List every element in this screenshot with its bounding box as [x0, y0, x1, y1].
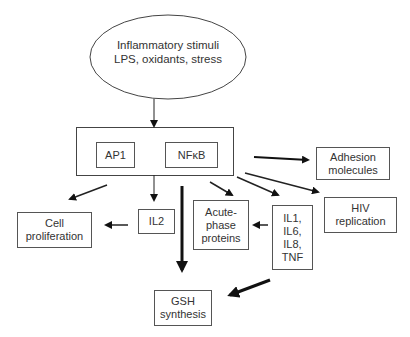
cell-proliferation-label: Cell proliferation [26, 217, 83, 243]
acute-phase-proteins-label: Acute- phase proteins [201, 206, 240, 245]
il2-node: IL2 [138, 209, 175, 234]
arrow-cytokines-to-gsh [230, 280, 270, 295]
cytokines-label: IL1, IL6, IL8, TNF [282, 212, 303, 264]
nfkb-node: NFκB [165, 142, 218, 168]
ap1-node: AP1 [96, 142, 135, 168]
adhesion-molecules-node: Adhesion molecules [316, 147, 390, 180]
cytokines-node: IL1, IL6, IL8, TNF [272, 205, 313, 270]
ap1-label: AP1 [105, 149, 126, 162]
stimuli-label: Inflammatory stimuli LPS, oxidants, stre… [100, 38, 236, 66]
arrow-tf-to-adhesion [254, 157, 308, 160]
adhesion-molecules-label: Adhesion molecules [328, 151, 378, 177]
arrow-tf-to-hiv [245, 173, 318, 192]
acute-phase-proteins-node: Acute- phase proteins [193, 200, 249, 250]
gsh-synthesis-label: GSH synthesis [160, 295, 206, 321]
gsh-synthesis-node: GSH synthesis [154, 290, 212, 326]
cell-proliferation-node: Cell proliferation [17, 212, 92, 248]
nfkb-label: NFκB [178, 149, 206, 162]
arrow-tf-to-acute-phase [210, 182, 232, 195]
hiv-replication-label: HIV replication [335, 202, 385, 228]
hiv-replication-node: HIV replication [324, 197, 397, 233]
il2-label: IL2 [149, 215, 164, 228]
arrow-tf-to-cell-proliferation [70, 185, 107, 199]
